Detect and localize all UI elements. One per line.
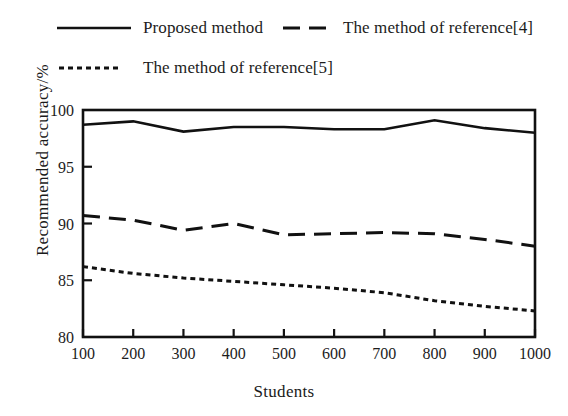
series-line-1	[83, 120, 535, 132]
chart-tick-labels: 1002003004005006007008009001000808590951…	[50, 102, 551, 362]
x-tick-label: 100	[71, 345, 95, 362]
y-tick-label: 95	[58, 159, 74, 176]
x-axis-title: Students	[0, 382, 568, 402]
x-tick-label: 300	[171, 345, 195, 362]
y-tick-label: 90	[58, 216, 74, 233]
chart-series	[83, 120, 535, 311]
y-tick-label: 100	[50, 102, 74, 119]
x-tick-label: 800	[423, 345, 447, 362]
x-tick-label: 900	[473, 345, 497, 362]
x-tick-label: 500	[272, 345, 296, 362]
chart-ticks	[83, 167, 535, 337]
chart-figure: Proposed method The method of reference[…	[0, 0, 568, 416]
plot-area: 1002003004005006007008009001000808590951…	[0, 0, 568, 416]
chart-svg: 1002003004005006007008009001000808590951…	[0, 0, 568, 416]
y-tick-label: 80	[58, 329, 74, 346]
x-tick-label: 600	[322, 345, 346, 362]
series-line-3	[83, 267, 535, 311]
series-line-2	[83, 216, 535, 247]
y-axis-title: Recommended accuracy/%	[33, 45, 53, 275]
x-tick-label: 700	[372, 345, 396, 362]
x-tick-label: 200	[121, 345, 145, 362]
x-tick-label: 1000	[519, 345, 551, 362]
y-tick-label: 85	[58, 272, 74, 289]
x-tick-label: 400	[222, 345, 246, 362]
